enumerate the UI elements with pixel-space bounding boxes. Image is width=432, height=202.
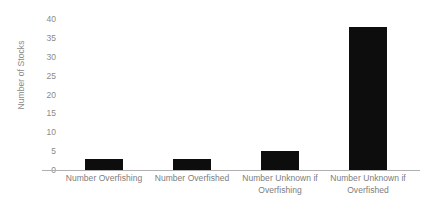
bar: [261, 151, 299, 170]
x-axis-tick-labels: Number OverfishingNumber OverfishedNumbe…: [60, 173, 412, 202]
bar: [173, 159, 211, 170]
y-axis-title: Number of Stocks: [14, 0, 28, 150]
bar: [85, 159, 123, 170]
y-axis-tick-label: 40: [30, 15, 56, 24]
x-axis-line: [42, 170, 420, 171]
y-axis-tick-labels: 0510152025303540: [30, 0, 56, 202]
plot-area: [60, 19, 412, 170]
x-axis-tick-label: Number Unknown if Overfishing: [236, 173, 324, 196]
y-axis-tick-label: 10: [30, 128, 56, 137]
bar-chart: Number of Stocks 0510152025303540 Number…: [0, 0, 432, 202]
y-axis-tick-label: 15: [30, 109, 56, 118]
x-axis-tick-label: Number Overfishing: [60, 173, 148, 185]
y-axis-tick-label: 30: [30, 52, 56, 61]
y-axis-tick-label: 25: [30, 71, 56, 80]
y-axis-tick-label: 20: [30, 90, 56, 99]
y-axis-tick-label: 35: [30, 33, 56, 42]
x-axis-tick-label: Number Unknown if Overfished: [324, 173, 412, 196]
y-axis-tick-label: 5: [30, 147, 56, 156]
x-axis-tick-label: Number Overfished: [148, 173, 236, 185]
bar: [349, 27, 387, 170]
